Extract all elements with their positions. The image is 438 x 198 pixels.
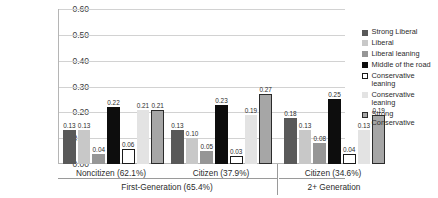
group-baseline-rule bbox=[58, 178, 278, 179]
group-baseline-rule bbox=[279, 178, 345, 179]
legend-swatch-icon bbox=[362, 62, 368, 68]
legend-label: Conservative leaning bbox=[372, 72, 438, 89]
legend-label: Liberal leaning bbox=[372, 50, 420, 58]
legend-swatch-icon bbox=[362, 112, 368, 118]
bar bbox=[63, 130, 76, 164]
bar-value-label: 0.03 bbox=[226, 148, 247, 155]
bar-value-label: 0.13 bbox=[295, 122, 316, 129]
bar bbox=[200, 151, 213, 164]
bar-value-label: 0.22 bbox=[103, 99, 124, 106]
legend-item[interactable]: Middle of the road bbox=[362, 61, 438, 69]
group-separator bbox=[277, 164, 278, 195]
legend-swatch-icon bbox=[362, 30, 368, 36]
bar bbox=[358, 130, 371, 164]
legend-label: Liberal bbox=[372, 39, 394, 47]
bar-value-label: 0.08 bbox=[309, 135, 330, 142]
bar bbox=[92, 154, 105, 164]
bar bbox=[122, 149, 135, 165]
bar bbox=[107, 107, 120, 164]
bar bbox=[137, 110, 150, 164]
bar bbox=[313, 143, 326, 164]
legend-swatch-icon bbox=[362, 51, 368, 57]
legend: Strong LiberalLiberalLiberal leaningMidd… bbox=[362, 28, 438, 130]
group-header-label: First-Generation (65.4%) bbox=[56, 182, 278, 192]
legend-item[interactable]: Liberal bbox=[362, 39, 438, 47]
legend-label: Strong Liberal bbox=[372, 28, 418, 36]
legend-item[interactable]: Conservative leaning bbox=[362, 91, 438, 108]
bar bbox=[230, 156, 243, 164]
bar-value-label: 0.04 bbox=[88, 146, 109, 153]
legend-label: Strong Conservative bbox=[372, 110, 438, 127]
bars-layer: 0.130.130.040.220.060.210.210.130.100.05… bbox=[58, 9, 345, 164]
category-label: Citizen (34.6%) bbox=[278, 168, 388, 178]
bar-value-label: 0.06 bbox=[118, 141, 139, 148]
legend-label: Conservative leaning bbox=[372, 91, 438, 108]
bar-value-label: 0.21 bbox=[147, 102, 168, 109]
bar bbox=[245, 115, 258, 164]
bar-group: 0.130.100.050.230.030.190.27 bbox=[170, 9, 273, 164]
bar bbox=[328, 99, 341, 164]
legend-label: Middle of the road bbox=[372, 61, 431, 69]
bar bbox=[259, 94, 272, 164]
bar-value-label: 0.04 bbox=[339, 146, 360, 153]
legend-item[interactable]: Strong Liberal bbox=[362, 28, 438, 36]
bar-group: 0.130.130.040.220.060.210.21 bbox=[62, 9, 165, 164]
bar-value-label: 0.10 bbox=[182, 130, 203, 137]
legend-swatch-icon bbox=[362, 40, 368, 46]
bar-value-label: 0.25 bbox=[324, 91, 345, 98]
bar bbox=[186, 138, 199, 164]
bar-value-label: 0.19 bbox=[241, 107, 262, 114]
bar-value-label: 0.18 bbox=[280, 110, 301, 117]
bar-chart: 0.600.500.400.300.200.100.00 0.130.130.0… bbox=[0, 0, 438, 198]
plot-area: 0.130.130.040.220.060.210.210.130.100.05… bbox=[58, 9, 345, 164]
bar-value-label: 0.27 bbox=[255, 86, 276, 93]
legend-swatch-icon bbox=[362, 92, 368, 98]
bar-value-label: 0.13 bbox=[167, 122, 188, 129]
legend-swatch-icon bbox=[362, 73, 368, 79]
bar bbox=[343, 154, 356, 164]
legend-item[interactable]: Liberal leaning bbox=[362, 50, 438, 58]
bar bbox=[151, 110, 164, 164]
category-label: Citizen (37.9%) bbox=[166, 168, 276, 178]
group-header-label: 2+ Generation bbox=[280, 182, 388, 192]
bar-value-label: 0.05 bbox=[196, 143, 217, 150]
category-label: Noncitizen (62.1%) bbox=[56, 168, 166, 178]
legend-item[interactable]: Conservative leaning bbox=[362, 72, 438, 89]
bar-value-label: 0.13 bbox=[74, 122, 95, 129]
bar-value-label: 0.23 bbox=[211, 97, 232, 104]
legend-item[interactable]: Strong Conservative bbox=[362, 110, 438, 127]
